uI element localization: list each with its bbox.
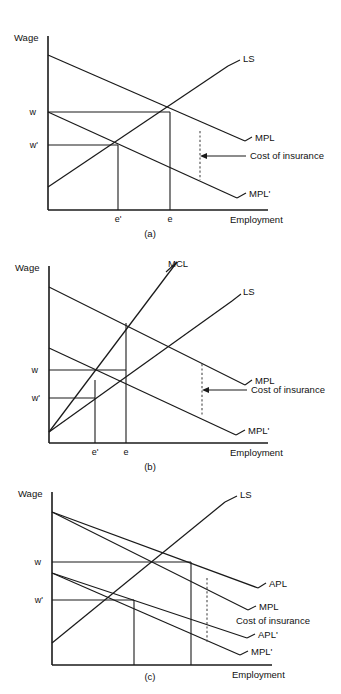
panel-c-curve-mpl-prime (52, 573, 240, 655)
panel-b-xtick-e-prime: e' (92, 447, 99, 457)
panel-c-label-mpl: MPL (259, 601, 279, 612)
panel-a-ytick-w-prime: w' (29, 140, 38, 150)
panel-a-label-mpl: MPL (255, 132, 275, 143)
panel-c-leader-mpl-prime (240, 651, 248, 655)
panel-b-ytick-w: w (31, 365, 39, 375)
panel-a: Wage Employment w w' e' e LS MPL MPL' Co… (0, 0, 341, 240)
panel-c-leader-apl-prime (247, 634, 255, 638)
panel-b-x-axis-label: Employment (230, 447, 283, 458)
panel-a-xtick-e-prime: e' (115, 214, 122, 224)
panel-c-y-axis-label: Wage (18, 488, 42, 499)
panel-b-caption: (b) (144, 461, 156, 472)
panel-c: Wage Employment w w' LS APL MPL APL' MPL… (0, 480, 341, 694)
panel-a-label-ls: LS (243, 53, 255, 64)
panel-a-label-mpl-prime: MPL' (249, 188, 271, 199)
panel-b-label-mcl: MCL (168, 258, 188, 269)
panel-a-y-axis-label: Wage (14, 32, 38, 43)
panel-c-curve-apl (52, 512, 258, 588)
panel-b-curve-mcl (49, 262, 177, 432)
panel-c-x-axis-label: Employment (232, 669, 285, 680)
panel-c-leader-apl (258, 583, 266, 588)
panel-b-xtick-e: e (123, 447, 128, 457)
panel-c-curve-apl-prime (52, 573, 247, 638)
panel-a-leader-mpl-prime (237, 193, 246, 198)
panel-c-annotation-cost-of-insurance: Cost of insurance (236, 615, 310, 626)
panel-c-label-apl: APL (269, 578, 287, 589)
panel-c-leader-mpl (248, 606, 256, 610)
panel-a-curve-ls (48, 66, 228, 187)
panel-a-chart: Wage Employment w w' e' e LS MPL MPL' Co… (0, 0, 341, 240)
panel-a-ytick-w: w (29, 107, 37, 117)
panel-a-leader-mpl (245, 137, 252, 141)
panel-b-annotation-cost-of-insurance: Cost of insurance (251, 384, 325, 395)
panel-b-ytick-w-prime: w' (31, 393, 40, 403)
panel-a-cost-arrow-head (200, 153, 207, 159)
panel-a-leader-ls (228, 60, 240, 66)
panel-a-x-axis-label: Employment (230, 214, 283, 225)
panel-a-caption: (a) (144, 228, 156, 239)
panel-b-label-mpl-prime: MPL' (248, 425, 270, 436)
panel-c-curve-mpl (52, 512, 248, 610)
panel-b: Wage Employment w w' e' e MCL LS MPL MPL… (0, 240, 341, 480)
panel-c-label-mpl-prime: MPL' (251, 646, 273, 657)
panel-b-y-axis-label: Wage (15, 262, 39, 273)
panel-a-curve-mpl (48, 55, 245, 141)
panel-b-curve-ls (49, 301, 232, 432)
panel-c-chart: Wage Employment w w' LS APL MPL APL' MPL… (0, 480, 341, 694)
panel-b-leader-ls (232, 294, 241, 301)
panel-c-ytick-w: w (34, 557, 42, 567)
panel-c-label-apl-prime: APL' (258, 629, 278, 640)
panel-a-annotation-cost-of-insurance: Cost of insurance (250, 150, 324, 161)
panel-a-xtick-e: e (167, 214, 172, 224)
panel-c-caption: (c) (144, 671, 155, 682)
panel-b-leader-mpl-prime (236, 430, 245, 435)
panel-c-label-ls: LS (240, 489, 252, 500)
panel-b-chart: Wage Employment w w' e' e MCL LS MPL MPL… (0, 240, 341, 480)
figure-labor-market-insurance: Wage Employment w w' e' e LS MPL MPL' Co… (0, 0, 341, 694)
panel-c-leader-ls (225, 496, 237, 502)
panel-b-cost-arrow-head (202, 387, 209, 393)
panel-c-ytick-w-prime: w' (34, 595, 43, 605)
panel-b-label-ls: LS (243, 286, 255, 297)
